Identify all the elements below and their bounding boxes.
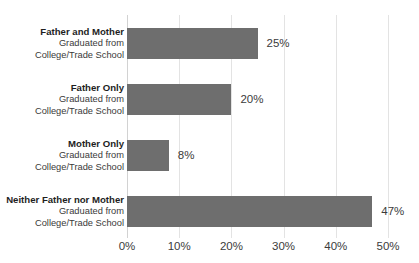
bar-row: 25% xyxy=(127,15,388,71)
bar-father-only[interactable] xyxy=(127,84,231,115)
category-label-line-3: College/Trade School xyxy=(0,105,124,117)
bar-row: 47% xyxy=(127,183,388,239)
category-label-line-1: Father and Mother xyxy=(0,26,124,38)
bar-value-label: 8% xyxy=(169,140,195,171)
x-tick-label: 50% xyxy=(376,240,399,252)
category-label-father-and-mother: Father and Mother Graduated from College… xyxy=(0,15,124,71)
category-label-line-2: Graduated from xyxy=(0,150,124,162)
bar-row: 8% xyxy=(127,127,388,183)
bars-layer: 25% 20% 8% 47% xyxy=(127,15,388,238)
category-label-line-2: Graduated from xyxy=(0,206,124,218)
category-label-line-2: Graduated from xyxy=(0,38,124,50)
x-tick-label: 40% xyxy=(324,240,347,252)
category-label-line-3: College/Trade School xyxy=(0,161,124,173)
bar-chart: Father and Mother Graduated from College… xyxy=(0,0,419,263)
bar-row: 20% xyxy=(127,71,388,127)
category-label-father-only: Father Only Graduated from College/Trade… xyxy=(0,71,124,127)
category-label-line-1: Father Only xyxy=(0,82,124,94)
plot-area: 25% 20% 8% 47% xyxy=(127,15,388,238)
category-label-line-1: Neither Father nor Mother xyxy=(0,194,124,206)
category-label-line-1: Mother Only xyxy=(0,138,124,150)
bar-neither-father-nor-mother[interactable] xyxy=(127,196,372,227)
category-label-mother-only: Mother Only Graduated from College/Trade… xyxy=(0,127,124,183)
x-tick-label: 20% xyxy=(220,240,243,252)
x-tick-label: 0% xyxy=(119,240,136,252)
bar-value-label: 25% xyxy=(258,28,290,59)
x-tick-label: 10% xyxy=(168,240,191,252)
category-label-line-3: College/Trade School xyxy=(0,49,124,61)
bar-value-label: 20% xyxy=(231,84,263,115)
bar-mother-only[interactable] xyxy=(127,140,169,171)
x-tick-label: 30% xyxy=(272,240,295,252)
category-label-neither-father-nor-mother: Neither Father nor Mother Graduated from… xyxy=(0,183,124,239)
category-label-line-3: College/Trade School xyxy=(0,217,124,229)
category-label-line-2: Graduated from xyxy=(0,94,124,106)
x-axis-tick-labels: 0%10%20%30%40%50% xyxy=(127,240,388,260)
bar-father-and-mother[interactable] xyxy=(127,28,258,59)
category-axis-labels: Father and Mother Graduated from College… xyxy=(0,15,124,238)
bar-value-label: 47% xyxy=(372,196,404,227)
